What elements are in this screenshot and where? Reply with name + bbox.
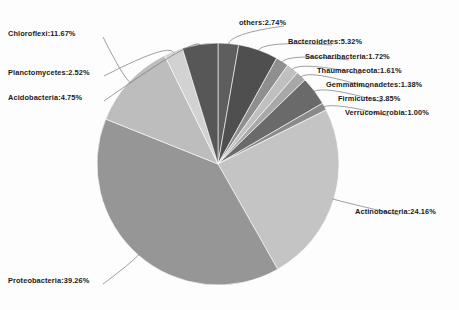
pie-chart-canvas (0, 0, 459, 310)
pie-label-bacteroidetes: Bacteroidetes:5.32% (288, 38, 362, 45)
pie-label-chloroflexi: Chloroflexi:11.67% (8, 30, 76, 37)
pie-label-thaumarchaeota: Thaumarchaeota:1.61% (317, 67, 402, 74)
leader-line-chloroflexi (103, 37, 130, 83)
pie-slice-group (97, 43, 339, 285)
pie-label-saccharibacteria: Saccharibacteria:1.72% (305, 53, 390, 60)
pie-label-acidobacteria: Acidobacteria:4.75% (8, 94, 82, 101)
pie-label-others: others:2.74% (239, 19, 286, 26)
pie-label-planctomycetes: Planctomycetes:2.52% (8, 69, 90, 76)
pie-label-firmicutes: Firmicutes:3.85% (338, 95, 400, 102)
leader-line-others (228, 26, 284, 45)
pie-chart-figure: Chloroflexi:11.67% Planctomycetes:2.52% … (0, 0, 459, 310)
leader-line-proteobacteria (103, 254, 139, 284)
pie-label-proteobacteria: Proteobacteria:39.26% (8, 277, 89, 284)
pie-label-actinobacteria: Actinobacteria:24.16% (355, 208, 436, 215)
pie-label-verrucomicrobia: Verrucomicrobia:1.00% (345, 109, 429, 116)
pie-label-gemmatimonadetes: Gemmatimonadetes:1.38% (326, 81, 422, 88)
